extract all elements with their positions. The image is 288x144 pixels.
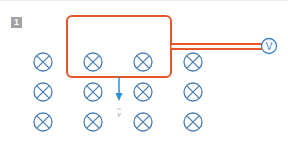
field-symbols [34, 53, 202, 131]
field-into-page-icon [134, 53, 152, 71]
field-into-page-icon [84, 53, 102, 71]
field-into-page-icon [34, 53, 52, 71]
field-into-page-icon [84, 83, 102, 101]
velocity-arrow-icon [116, 77, 123, 101]
conducting-loop [67, 16, 171, 77]
field-into-page-icon [134, 113, 152, 131]
voltmeter-label: V [266, 41, 273, 52]
field-into-page-icon [84, 113, 102, 131]
field-into-page-icon [184, 113, 202, 131]
field-into-page-icon [184, 83, 202, 101]
voltmeter-icon: V [262, 39, 277, 54]
field-into-page-icon [134, 83, 152, 101]
field-into-page-icon [34, 83, 52, 101]
field-into-page-icon [184, 53, 202, 71]
field-into-page-icon [34, 113, 52, 131]
magnetic-field-diagram: V v [0, 0, 288, 144]
velocity-label: v [117, 110, 121, 119]
